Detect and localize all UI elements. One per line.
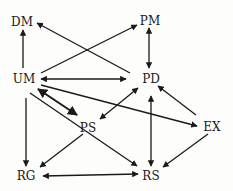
edge-ps-rg (40, 134, 83, 167)
node-rg: RG (17, 170, 36, 182)
edges-layer (0, 0, 233, 191)
node-ps: PS (80, 122, 96, 134)
edge-ex-pd (158, 86, 196, 115)
node-pd: PD (142, 73, 160, 85)
graph-diagram: DM PM UM PD PS EX RG RS (0, 0, 233, 191)
node-um: UM (13, 73, 35, 85)
node-rs: RS (142, 170, 159, 182)
edge-pd-dm (37, 23, 130, 73)
edge-ex-rs (163, 134, 208, 167)
node-ex: EX (203, 121, 220, 133)
edge-ps-pd (100, 88, 138, 119)
node-pm: PM (140, 15, 160, 27)
node-dm: DM (11, 16, 33, 28)
edge-rg-rs (43, 174, 138, 176)
